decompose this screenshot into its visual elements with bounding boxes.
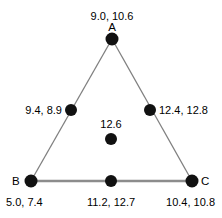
- center-value-label: 12.6: [100, 118, 121, 130]
- center-point[interactable]: [105, 133, 117, 145]
- vertex-c-letter: C: [201, 175, 209, 187]
- triangle-diagram: 9.0, 10.6 A 9.4, 8.9 12.4, 12.8 12.6 B 5…: [0, 0, 222, 218]
- vertex-c-point[interactable]: [186, 175, 199, 188]
- left-midpoint-value-label: 9.4, 8.9: [25, 104, 62, 116]
- right-midpoint-point[interactable]: [144, 104, 156, 116]
- vertex-b-value-label: 5.0, 7.4: [6, 196, 43, 208]
- apex-vertex-letter: A: [108, 21, 116, 33]
- left-midpoint-point[interactable]: [65, 104, 77, 116]
- apex-point-a[interactable]: [106, 33, 119, 46]
- vertex-c-value-label: 10.4, 10.8: [166, 196, 215, 208]
- bottom-midpoint-value-label: 11.2, 12.7: [87, 196, 135, 208]
- vertex-b-letter: B: [12, 175, 20, 187]
- vertex-b-point[interactable]: [25, 175, 38, 188]
- bottom-midpoint-point[interactable]: [105, 175, 117, 187]
- right-midpoint-value-label: 12.4, 12.8: [159, 104, 208, 116]
